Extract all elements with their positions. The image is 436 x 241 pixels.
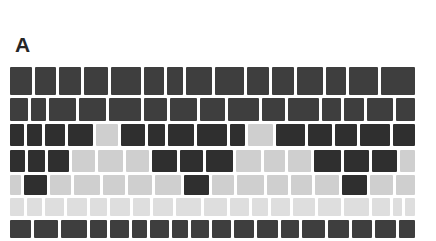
tile-pale (271, 198, 290, 216)
tile-pale (133, 198, 150, 216)
tile-mid (375, 220, 396, 238)
tile-dark (27, 124, 42, 146)
tile-light (288, 150, 311, 172)
tile-light (50, 175, 71, 195)
tile-dark (121, 124, 145, 146)
tile-dark (168, 124, 194, 146)
tile-light (10, 175, 21, 195)
tile-mid (215, 67, 245, 95)
tile-mid (257, 220, 278, 238)
tile-mid (281, 220, 299, 238)
tile-light (396, 175, 415, 195)
tile-mid (172, 220, 188, 238)
tile-mid (144, 67, 164, 95)
tile-mid (150, 220, 168, 238)
tile-light (315, 175, 340, 195)
tile-row-7 (10, 220, 415, 238)
tile-mid (59, 67, 81, 95)
tile-mid (234, 220, 255, 238)
tile-light (96, 124, 118, 146)
tile-pale (176, 198, 201, 216)
tile-mid (228, 98, 259, 121)
tile-dark (24, 175, 47, 195)
tile-row-5 (10, 175, 415, 195)
tile-mid (247, 67, 269, 95)
tile-mid (322, 98, 341, 121)
tile-dark (10, 124, 24, 146)
tile-mid (328, 220, 349, 238)
tile-mid (31, 98, 47, 121)
tile-mid (367, 98, 393, 121)
tile-dark (276, 124, 305, 146)
tile-mid (288, 98, 319, 121)
tile-pale (153, 198, 172, 216)
tile-mid (297, 67, 324, 95)
tile-light (74, 175, 100, 195)
tile-mid (10, 220, 31, 238)
tile-pale (372, 198, 389, 216)
tile-light (264, 150, 285, 172)
tile-mid (186, 67, 212, 95)
tile-pale (230, 198, 249, 216)
tile-mid (111, 67, 142, 95)
tile-dark (10, 150, 25, 172)
tile-mid (49, 98, 76, 121)
tile-mid (352, 220, 373, 238)
tile-row-2 (10, 98, 415, 121)
tile-pale (110, 198, 129, 216)
tile-dark (360, 124, 389, 146)
tile-pale (27, 198, 43, 216)
tile-pale (67, 198, 86, 216)
tile-mid (396, 98, 415, 121)
tile-mid (262, 98, 285, 121)
tile-mid (10, 67, 32, 95)
tile-row-6 (10, 198, 415, 216)
tile-dark (184, 175, 209, 195)
tile-dark (197, 124, 227, 146)
tile-row-3 (10, 124, 415, 146)
tile-dark (393, 124, 415, 146)
tile-pale (344, 198, 369, 216)
tile-mid (167, 67, 183, 95)
tile-pale (252, 198, 268, 216)
tile-pale (10, 198, 24, 216)
tile-dark (342, 175, 367, 195)
tile-dark (335, 124, 357, 146)
tile-mid (170, 98, 197, 121)
tile-mid (84, 67, 108, 95)
tile-mid (381, 67, 415, 95)
tile-light (370, 175, 393, 195)
tile-row-4 (10, 150, 415, 172)
tile-light (72, 150, 95, 172)
tile-dark (180, 150, 203, 172)
tile-pale (90, 198, 107, 216)
tile-light (126, 150, 149, 172)
tile-mid (349, 67, 379, 95)
tile-pale (393, 198, 403, 216)
tile-mid (302, 220, 325, 238)
tile-mid (326, 67, 346, 95)
tile-row-1 (10, 67, 415, 95)
tile-pale (45, 198, 64, 216)
tile-light (248, 124, 272, 146)
tile-mid (109, 98, 141, 121)
tile-pale (405, 198, 415, 216)
tile-mid (399, 220, 415, 238)
tile-mid (144, 98, 167, 121)
tile-dark (148, 124, 164, 146)
tile-dark (28, 150, 44, 172)
tile-mid (35, 67, 57, 95)
panel-label: A (15, 34, 30, 55)
tile-mid (10, 98, 28, 121)
tile-light (267, 175, 288, 195)
tile-mid (34, 220, 59, 238)
tile-dark (48, 150, 69, 172)
tile-mid (61, 220, 87, 238)
tile-mid (200, 98, 225, 121)
tile-dark (68, 124, 93, 146)
tile-mid (212, 220, 230, 238)
tile-pale (318, 198, 341, 216)
tile-light (128, 175, 153, 195)
tile-mid (79, 98, 106, 121)
tile-light (236, 150, 261, 172)
